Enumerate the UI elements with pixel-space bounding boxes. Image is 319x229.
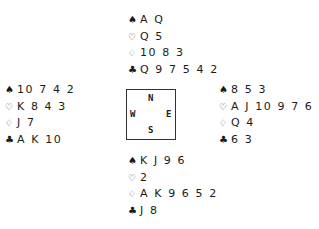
south-clubs: ♣J 8 — [128, 203, 218, 220]
club-icon: ♣ — [219, 132, 231, 149]
east-clubs: ♣6 3 — [219, 132, 313, 149]
compass-west: W — [130, 109, 135, 119]
club-icon: ♣ — [128, 62, 140, 79]
compass-box: N W E S — [126, 89, 176, 140]
west-diamonds: ♢J 7 — [5, 115, 75, 132]
north-spades: ♠A Q — [128, 12, 219, 29]
south-diamonds-cards: A K 9 6 5 2 — [140, 187, 218, 200]
south-hearts-cards: 2 — [140, 171, 149, 184]
east-diamonds: ♢Q 4 — [219, 115, 313, 132]
west-diamonds-cards: J 7 — [17, 116, 36, 129]
heart-icon: ♡ — [128, 29, 140, 46]
club-icon: ♣ — [5, 132, 17, 149]
compass-east: E — [166, 109, 171, 119]
spade-icon: ♠ — [128, 153, 140, 170]
west-hand: ♠10 7 4 2 ♡K 8 4 3 ♢J 7 ♣A K 10 — [5, 82, 75, 148]
west-hearts-cards: K 8 4 3 — [17, 100, 67, 113]
south-hand: ♠K J 9 6 ♡2 ♢A K 9 6 5 2 ♣J 8 — [128, 153, 218, 219]
east-hearts: ♡A J 10 9 7 6 — [219, 99, 313, 116]
west-clubs: ♣A K 10 — [5, 132, 75, 149]
compass-south: S — [148, 125, 153, 135]
east-clubs-cards: 6 3 — [231, 133, 253, 146]
south-spades-cards: K J 9 6 — [140, 154, 186, 167]
spade-icon: ♠ — [5, 82, 17, 99]
west-spades-cards: 10 7 4 2 — [17, 83, 75, 96]
east-spades-cards: 8 5 3 — [231, 83, 267, 96]
south-hearts: ♡2 — [128, 170, 218, 187]
east-spades: ♠8 5 3 — [219, 82, 313, 99]
spade-icon: ♠ — [219, 82, 231, 99]
club-icon: ♣ — [128, 203, 140, 220]
west-spades: ♠10 7 4 2 — [5, 82, 75, 99]
diamond-icon: ♢ — [128, 45, 140, 62]
east-hearts-cards: A J 10 9 7 6 — [231, 100, 313, 113]
north-clubs: ♣Q 9 7 5 4 2 — [128, 62, 219, 79]
east-hand: ♠8 5 3 ♡A J 10 9 7 6 ♢Q 4 ♣6 3 — [219, 82, 313, 148]
diamond-icon: ♢ — [219, 115, 231, 132]
east-diamonds-cards: Q 4 — [231, 116, 255, 129]
west-hearts: ♡K 8 4 3 — [5, 99, 75, 116]
spade-icon: ♠ — [128, 12, 140, 29]
compass-north: N — [148, 93, 153, 103]
north-clubs-cards: Q 9 7 5 4 2 — [140, 63, 219, 76]
north-hearts: ♡Q 5 — [128, 29, 219, 46]
north-diamonds: ♢10 8 3 — [128, 45, 219, 62]
north-diamonds-cards: 10 8 3 — [140, 46, 185, 59]
heart-icon: ♡ — [5, 99, 17, 116]
heart-icon: ♡ — [128, 170, 140, 187]
diamond-icon: ♢ — [128, 186, 140, 203]
diamond-icon: ♢ — [5, 115, 17, 132]
south-clubs-cards: J 8 — [140, 204, 159, 217]
north-spades-cards: A Q — [140, 13, 164, 26]
west-clubs-cards: A K 10 — [17, 133, 62, 146]
heart-icon: ♡ — [219, 99, 231, 116]
north-hearts-cards: Q 5 — [140, 30, 164, 43]
south-spades: ♠K J 9 6 — [128, 153, 218, 170]
south-diamonds: ♢A K 9 6 5 2 — [128, 186, 218, 203]
north-hand: ♠A Q ♡Q 5 ♢10 8 3 ♣Q 9 7 5 4 2 — [128, 12, 219, 78]
